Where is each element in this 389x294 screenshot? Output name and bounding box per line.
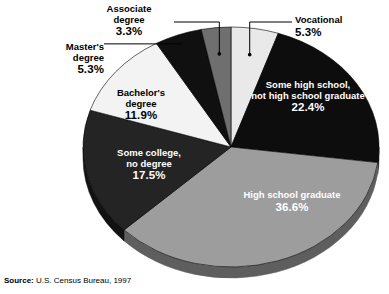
label-high-school-graduate: High school graduate 36.6% xyxy=(222,190,362,214)
label-high-school-graduate-line1: High school graduate xyxy=(222,190,362,201)
source-value: U.S. Census Bureau, 1997 xyxy=(36,276,131,285)
label-bachelors-degree-line2: degree xyxy=(98,99,184,110)
label-masters-degree-percent: 5.3% xyxy=(14,63,104,76)
label-vocational: Vocational 5.3% xyxy=(295,15,385,39)
label-masters-degree: Master's degree 5.3% xyxy=(14,42,104,76)
label-bachelors-degree-percent: 11.9% xyxy=(98,109,184,122)
label-some-college-percent: 17.5% xyxy=(99,169,199,182)
label-some-high-school: Some high school, not high school gradua… xyxy=(238,80,378,114)
pie-chart-figure: Associate degree 3.3% Vocational 5.3% Ma… xyxy=(0,0,389,294)
label-some-college-line2: no degree xyxy=(99,159,199,170)
label-high-school-graduate-percent: 36.6% xyxy=(222,201,362,214)
label-masters-degree-line2: degree xyxy=(14,53,104,64)
source-note: Source: U.S. Census Bureau, 1997 xyxy=(4,276,131,285)
label-vocational-line1: Vocational xyxy=(295,15,385,26)
label-vocational-percent: 5.3% xyxy=(295,26,385,39)
label-associate-degree-line2: degree xyxy=(86,15,172,26)
label-associate-degree-percent: 3.3% xyxy=(86,25,172,38)
source-label: Source: xyxy=(4,276,34,285)
label-bachelors-degree: Bachelor's degree 11.9% xyxy=(98,88,184,122)
label-associate-degree: Associate degree 3.3% xyxy=(86,4,172,38)
label-some-high-school-line2: not high school graduate xyxy=(238,91,378,102)
label-some-high-school-percent: 22.4% xyxy=(238,101,378,114)
label-some-college: Some college, no degree 17.5% xyxy=(99,148,199,182)
